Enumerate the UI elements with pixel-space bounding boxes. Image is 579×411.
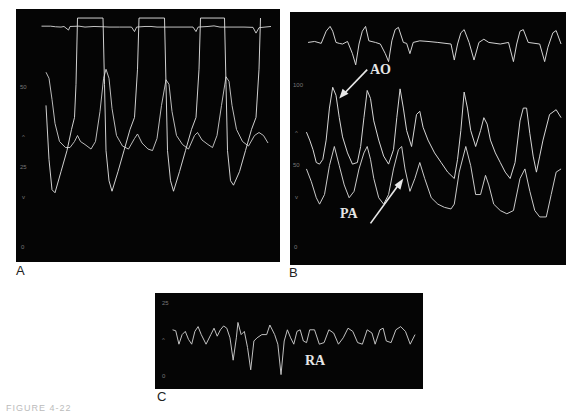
panel-a-ytick-mid-lower: v <box>22 194 25 200</box>
panel-c-ytick-0: 0 <box>162 373 165 379</box>
panel-b-ytick-0: 0 <box>294 244 297 250</box>
pa-arrow-icon <box>371 185 399 223</box>
panel-a-label: A <box>16 263 25 278</box>
waveform-atrial-arterial-pressure <box>46 69 268 150</box>
panel-b-ytick-50: 50 <box>293 162 300 168</box>
panel-c-label: C <box>157 389 166 404</box>
panel-c-waveform <box>155 293 423 389</box>
panel-a-plot: 50 ^ 25 v 0 <box>16 9 280 262</box>
panel-a-ytick-mid-upper: ^ <box>22 134 25 140</box>
ra-annotation: RA <box>305 353 325 369</box>
panel-b-ytick-mid-lower: v <box>295 194 298 200</box>
ao-annotation: AO <box>370 62 391 78</box>
panel-b-plot: 100 ^ 50 v 0 AO PA <box>290 12 566 265</box>
waveform-ra <box>173 322 415 374</box>
figure-caption: FIGURE 4-22 <box>6 403 72 411</box>
panel-a-ytick-0: 0 <box>21 244 24 250</box>
waveform-ecg <box>308 26 561 64</box>
waveform-ao <box>306 87 561 178</box>
panel-b-waveforms <box>290 12 566 265</box>
panel-c-plot: 25 ^ 0 RA <box>155 293 423 389</box>
panel-b-ytick-mid-upper: ^ <box>295 130 298 136</box>
panel-b-label: B <box>289 265 298 280</box>
panel-a-ytick-25: 25 <box>20 164 27 170</box>
panel-c-ytick-25: 25 <box>162 300 169 306</box>
waveform-ecg <box>42 26 272 33</box>
pa-annotation: PA <box>340 206 358 222</box>
panel-a-ytick-50: 50 <box>20 84 27 90</box>
panel-a-waveforms <box>16 9 280 262</box>
panel-b-ytick-100: 100 <box>293 82 303 88</box>
panel-c-ytick-mid: ^ <box>162 337 165 343</box>
waveform-ventricular-pressure <box>46 18 261 193</box>
ao-arrow-icon <box>343 70 368 96</box>
